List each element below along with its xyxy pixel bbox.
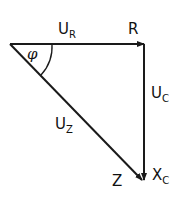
label-uz: UZ bbox=[55, 117, 73, 132]
phasor-diagram: UR R φ UC UZ Z XC bbox=[0, 0, 184, 203]
label-r: R bbox=[128, 22, 138, 37]
label-z: Z bbox=[112, 174, 122, 189]
label-uc: UC bbox=[151, 86, 169, 101]
phi-angle-arc bbox=[41, 44, 52, 75]
label-xc: XC bbox=[152, 168, 169, 183]
label-phi: φ bbox=[27, 47, 38, 62]
label-ur: UR bbox=[58, 22, 76, 37]
uz-vector bbox=[10, 44, 142, 180]
